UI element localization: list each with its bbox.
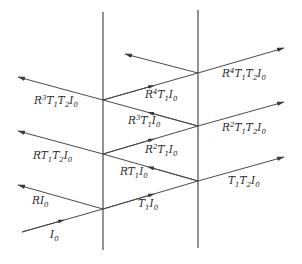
incident-ray [22, 209, 103, 232]
label-RI0: RI0 [31, 194, 49, 209]
ray-diagram: I0 RI0 T1I0 RT1I0 R2T1I0 R3T1I0 R4T1I0 R… [0, 0, 302, 264]
label-T1T2I0: T1T2I0 [228, 174, 260, 189]
reflected-ray-RT1T2I0 [18, 131, 103, 154]
label-I0: I0 [49, 228, 59, 243]
label-T1I0: T1I0 [138, 197, 159, 212]
reflected-ray-RI0 [18, 185, 103, 209]
label-RT1I0: RT1I0 [119, 165, 148, 180]
label-RT1T2I0: RT1T2I0 [32, 149, 73, 164]
label-R4T1I0: R4T1I0 [144, 88, 178, 103]
label-R2T1T2I0: R2T1T2I0 [221, 121, 267, 136]
internal-ray-2 [103, 154, 198, 181]
label-R3T1T2I0: R3T1T2I0 [33, 94, 79, 109]
label-R4T1T2I0: R4T1T2I0 [221, 67, 267, 82]
label-R3T1I0: R3T1I0 [127, 114, 161, 129]
internal-ray-6 [125, 54, 198, 73]
label-R2T1I0: R2T1I0 [144, 143, 178, 158]
